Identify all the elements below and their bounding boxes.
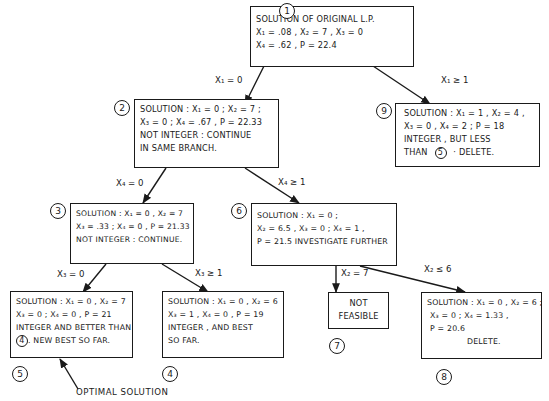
edge-label-x1-ge-1: X₁ ≥ 1 [441,75,468,85]
node-5-line-2: X₃ = 0 ; X₄ = 0 , P = 21 [16,308,127,321]
node-3-line-2: X₃ = .33 ; X₄ = 0 , P = 21.33 [76,220,188,233]
node-2: SOLUTION : X₁ = 0 ; X₂ = 7 ; X₃ = 0 ; X₄… [134,99,279,168]
node-number-1-label: 1 [279,3,295,19]
node-9: SOLUTION : X₁ = 1 , X₂ = 4 , X₃ = 0 , X₄… [395,103,540,167]
node-7-line-1: NOT [334,297,383,310]
node-1-line-2: X₁ = .08 , X₂ = 7 , X₃ = 0 [256,26,408,39]
node-6-line-2: X₂ = 6.5 , X₃ = 0 ; X₄ = 1 , [257,222,391,235]
edge-optimal-pointer [60,359,78,389]
node-6: SOLUTION : X₁ = 0 ; X₂ = 6.5 , X₃ = 0 ; … [251,203,397,266]
node-1-original-lp: SOLUTION OF ORIGINAL L.P. X₁ = .08 , X₂ … [250,6,414,67]
node-9-than-text: THAN [404,147,428,157]
node-5-line-1: SOLUTION : X₁ = 0 , X₂ = 7 [16,295,127,308]
node-8-line-4: DELETE. [427,335,536,348]
node-2-line-1: SOLUTION : X₁ = 0 ; X₂ = 7 ; [140,103,273,116]
node-7-not-feasible: NOT FEASIBLE [328,292,389,329]
node-4-line-4: SO FAR. [168,334,278,347]
node-number-8: 8 [436,369,452,385]
node-4: SOLUTION : X₁ = 0 , X₂ = 6 X₃ = 1 , X₄ =… [162,291,284,358]
node-number-3: 3 [50,203,66,219]
node-number-2: 2 [114,100,130,116]
node-9-line-1: SOLUTION : X₁ = 1 , X₂ = 4 , [404,107,534,120]
node-number-9: 9 [376,103,392,119]
node-2-line-4: IN SAME BRANCH. [140,142,273,155]
node-5-optimal: SOLUTION : X₁ = 0 , X₂ = 7 X₃ = 0 ; X₄ =… [10,291,133,358]
node-9-ref-circle-5: 5 [435,147,447,159]
node-2-line-2: X₃ = 0 ; X₄ = .67 , P = 22.33 [140,116,273,129]
optimal-solution-annotation: OPTIMAL SOLUTION [76,387,168,397]
edge-label-x4-ge-1: X₄ ≥ 1 [278,177,305,187]
node-1-line-1: SOLUTION OF ORIGINAL L.P. [256,13,408,26]
node-5-line-4: 4. NEW BEST SO FAR. [16,334,127,347]
node-6-line-3: P = 21.5 INVESTIGATE FURTHER [257,235,391,248]
node-3-line-1: SOLUTION : X₁ = 0 , X₂ = 7 [76,207,188,220]
node-5-new-best-text: . NEW BEST SO FAR. [28,336,110,345]
node-3-line-3: NOT INTEGER : CONTINUE. [76,233,188,246]
node-8-line-1: SOLUTION : X₁ = 0 , X₂ = 6 ; [427,296,536,309]
node-9-delete-text: · DELETE. [453,147,494,157]
edge-label-x3-eq-0: X₃ = 0 [57,269,84,279]
node-8-line-3: P = 20.6 [427,322,536,335]
node-9-line-4: THAN 5 · DELETE. [404,146,534,159]
node-2-line-3: NOT INTEGER : CONTINUE [140,129,273,142]
edge-3-5 [83,264,106,292]
edge-label-x2-eq-7: X₂ = 7 [341,268,368,278]
node-6-line-1: SOLUTION : X₁ = 0 ; [257,209,391,222]
node-3: SOLUTION : X₁ = 0 , X₂ = 7 X₃ = .33 ; X₄… [70,203,194,264]
edge-1-9 [373,66,430,104]
node-4-line-2: X₃ = 1 , X₄ = 0 , P = 19 [168,308,278,321]
node-number-7: 7 [329,338,345,354]
node-8: SOLUTION : X₁ = 0 , X₂ = 6 ; X₃ = 0 ; X₄… [421,292,542,359]
node-5-ref-circle-4: 4 [16,335,28,347]
edge-label-x4-eq-0: X₄ = 0 [116,178,143,188]
node-4-line-3: INTEGER , AND BEST [168,321,278,334]
node-7-line-2: FEASIBLE [334,310,383,323]
edge-2-3 [143,168,166,203]
node-9-line-2: X₃ = 0 , X₄ = 2 ; P = 18 [404,120,534,133]
node-8-line-2: X₃ = 0 ; X₄ = 1.33 , [427,309,536,322]
node-number-5: 5 [12,366,28,382]
node-number-4: 4 [162,366,178,382]
node-9-line-3: INTEGER , BUT LESS [404,133,534,146]
branch-and-bound-diagram: 1 SOLUTION OF ORIGINAL L.P. X₁ = .08 , X… [0,0,549,401]
node-number-6: 6 [231,203,247,219]
node-5-line-3: INTEGER AND BETTER THAN [16,321,127,334]
node-4-line-1: SOLUTION : X₁ = 0 , X₂ = 6 [168,295,278,308]
edge-label-x1-eq-0: X₁ = 0 [215,75,242,85]
node-1-line-3: X₄ = .62 , P = 22.4 [256,39,408,52]
edge-label-x2-le-6: X₂ ≤ 6 [424,264,451,274]
edge-label-x3-ge-1: X₃ ≥ 1 [195,268,222,278]
